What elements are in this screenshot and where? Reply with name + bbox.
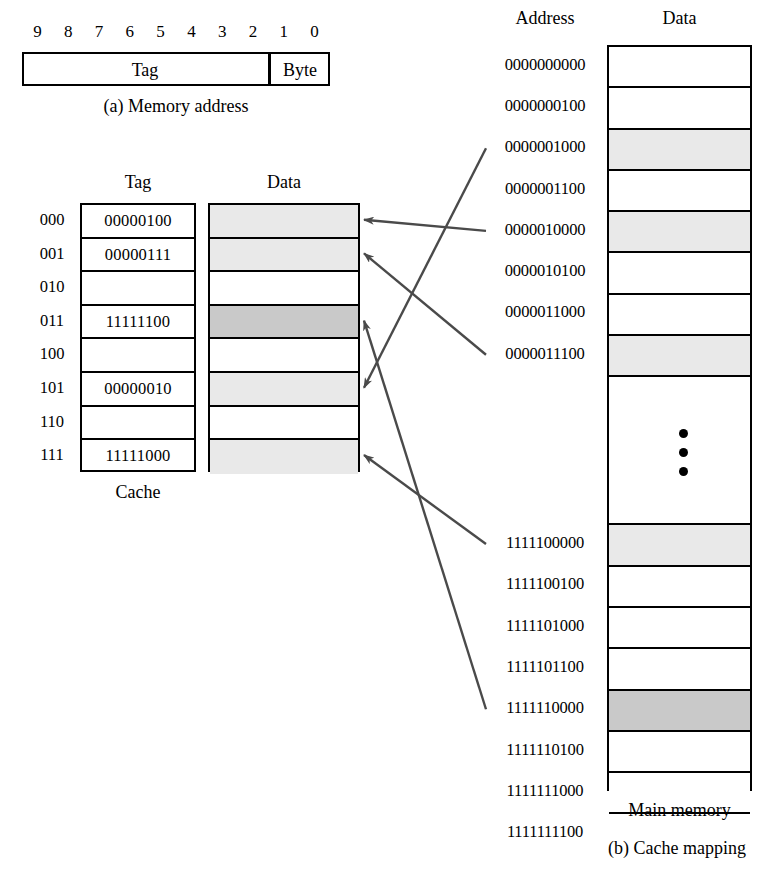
cache-caption: Cache xyxy=(80,482,196,503)
memory-data-header: Data xyxy=(607,8,752,29)
cache-tag-cell: 00000010 xyxy=(82,373,194,407)
memory-data-cell xyxy=(609,336,750,377)
vertical-ellipsis-dot xyxy=(679,429,688,438)
memory-data-cell xyxy=(609,649,750,690)
cache-tag-cell: 11111100 xyxy=(82,306,194,340)
memory-address-label: 1111110000 xyxy=(484,698,606,718)
address-byte-field-label: Byte xyxy=(270,57,330,83)
cache-data-cell xyxy=(210,339,358,373)
mapping-arrow xyxy=(364,321,486,710)
memory-data-cell xyxy=(609,254,750,295)
address-bit-2: 2 xyxy=(242,22,264,42)
vertical-ellipsis-dot xyxy=(679,448,688,457)
memory-address-label: 1111101100 xyxy=(484,657,606,677)
cache-index-label: 101 xyxy=(28,378,76,398)
mapping-arrow xyxy=(364,148,486,388)
address-bit-1: 1 xyxy=(273,22,295,42)
cache-data-header: Data xyxy=(208,172,360,193)
address-bit-7: 7 xyxy=(88,22,110,42)
memory-data-cell xyxy=(609,295,750,336)
cache-tag-cell xyxy=(82,339,194,373)
memory-data-cell xyxy=(609,608,750,649)
caption-a: (a) Memory address xyxy=(22,96,330,117)
memory-address-label: 0000010100 xyxy=(484,261,606,281)
mapping-arrow xyxy=(364,220,486,231)
cache-data-cell xyxy=(210,440,358,474)
memory-address-label: 0000001000 xyxy=(484,137,606,157)
cache-tag-cell: 11111000 xyxy=(82,440,194,474)
cache-data-cell xyxy=(210,205,358,239)
memory-data-cell xyxy=(609,171,750,212)
cache-index-label: 001 xyxy=(28,244,76,264)
address-bit-3: 3 xyxy=(211,22,233,42)
address-bit-0: 0 xyxy=(304,22,326,42)
cache-data-cell xyxy=(210,306,358,340)
cache-data-cell xyxy=(210,239,358,273)
cache-data-cell xyxy=(210,272,358,306)
memory-data-cell xyxy=(609,88,750,129)
memory-address-header: Address xyxy=(480,8,610,29)
memory-address-label: 0000011100 xyxy=(484,344,606,364)
cache-tag-header: Tag xyxy=(80,172,196,193)
mapping-arrow xyxy=(364,253,486,354)
memory-address-label: 0000010000 xyxy=(484,220,606,240)
memory-data-cell xyxy=(609,567,750,608)
memory-address-label: 1111100000 xyxy=(484,533,606,553)
address-bit-9: 9 xyxy=(26,22,48,42)
memory-address-label: 0000011000 xyxy=(484,302,606,322)
cache-tag-column: 0000010000000111111111000000001011111000 xyxy=(80,203,196,472)
memory-data-column xyxy=(607,45,752,791)
memory-address-label: 1111111000 xyxy=(484,781,606,801)
memory-caption: Main memory xyxy=(607,800,752,821)
address-bit-4: 4 xyxy=(180,22,202,42)
caption-b: (b) Cache mapping xyxy=(575,838,779,859)
cache-tag-cell xyxy=(82,407,194,441)
memory-data-cell xyxy=(609,525,750,566)
cache-index-label: 000 xyxy=(28,210,76,230)
memory-address-label: 1111100100 xyxy=(484,574,606,594)
memory-data-cell xyxy=(609,691,750,732)
vertical-ellipsis-dot xyxy=(679,467,688,476)
address-bit-6: 6 xyxy=(119,22,141,42)
memory-address-label: 0000000000 xyxy=(484,55,606,75)
address-tag-field-label: Tag xyxy=(22,57,268,83)
address-bit-8: 8 xyxy=(57,22,79,42)
cache-index-label: 011 xyxy=(28,311,76,331)
memory-data-cell xyxy=(609,47,750,88)
cache-index-label: 100 xyxy=(28,344,76,364)
cache-tag-cell xyxy=(82,272,194,306)
cache-mapping-figure: 9876543210 Tag Byte (a) Memory address T… xyxy=(0,0,779,895)
memory-data-cell xyxy=(609,732,750,773)
cache-data-column xyxy=(208,203,360,472)
memory-address-label: 1111101000 xyxy=(484,616,606,636)
memory-gap-cell xyxy=(609,377,750,525)
memory-data-cell xyxy=(609,212,750,253)
memory-address-label: 0000001100 xyxy=(484,179,606,199)
cache-index-label: 110 xyxy=(28,412,76,432)
cache-data-cell xyxy=(210,373,358,407)
cache-data-cell xyxy=(210,407,358,441)
memory-data-cell xyxy=(609,130,750,171)
cache-tag-cell: 00000100 xyxy=(82,205,194,239)
mapping-arrow xyxy=(364,455,486,544)
memory-address-label: 0000000100 xyxy=(484,96,606,116)
memory-address-label: 1111110100 xyxy=(484,740,606,760)
address-bit-5: 5 xyxy=(150,22,172,42)
cache-index-label: 111 xyxy=(28,445,76,465)
cache-tag-cell: 00000111 xyxy=(82,239,194,273)
cache-index-label: 010 xyxy=(28,277,76,297)
